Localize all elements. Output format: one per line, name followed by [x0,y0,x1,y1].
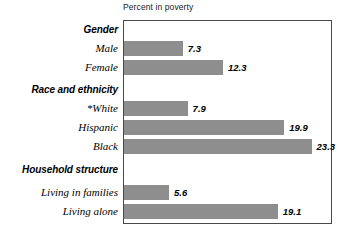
bar-group: 7.3 [124,41,201,56]
category-label: *White [0,98,118,118]
bar [124,101,188,116]
bar [124,60,223,75]
bar [124,185,169,200]
bar-row: Black23.3 [0,136,345,156]
bar-row: Female12.3 [0,57,345,77]
category-label: Black [0,136,118,156]
bar-group: 12.3 [124,60,247,75]
bar [124,41,183,56]
category-label: Living alone [0,201,118,221]
bar-row: *White7.9 [0,98,345,118]
bar-value-label: 19.1 [283,204,302,219]
group-heading-label: Race and ethnicity [0,80,118,100]
bar-row: Male7.3 [0,38,345,58]
category-label: Living in families [0,182,118,202]
bar-row: Living alone19.1 [0,201,345,221]
category-label: Male [0,38,118,58]
bar-value-label: 19.9 [289,120,308,135]
bar [124,120,284,135]
group-heading-label: Household structure [0,160,118,180]
bar-group: 19.9 [124,120,308,135]
bar [124,204,278,219]
bar-value-label: 7.3 [188,41,201,56]
poverty-bar-chart: Percent in poverty GenderMale7.3Female12… [0,0,345,240]
bar-row: Hispanic19.9 [0,117,345,137]
group-heading-label: Gender [0,20,118,40]
bar-value-label: 7.9 [193,101,206,116]
bar-value-label: 23.3 [317,139,336,154]
bar-group: 7.9 [124,101,206,116]
bar-value-label: 12.3 [228,60,247,75]
group-heading-row: Household structure [0,160,345,180]
chart-title: Percent in poverty [123,2,193,12]
category-label: Hispanic [0,117,118,137]
bar-value-label: 5.6 [174,185,187,200]
category-label: Female [0,57,118,77]
group-heading-row: Gender [0,20,345,40]
bar-group: 23.3 [124,139,335,154]
bar [124,139,312,154]
bar-group: 19.1 [124,204,301,219]
group-heading-row: Race and ethnicity [0,80,345,100]
bar-row: Living in families5.6 [0,182,345,202]
bar-group: 5.6 [124,185,187,200]
